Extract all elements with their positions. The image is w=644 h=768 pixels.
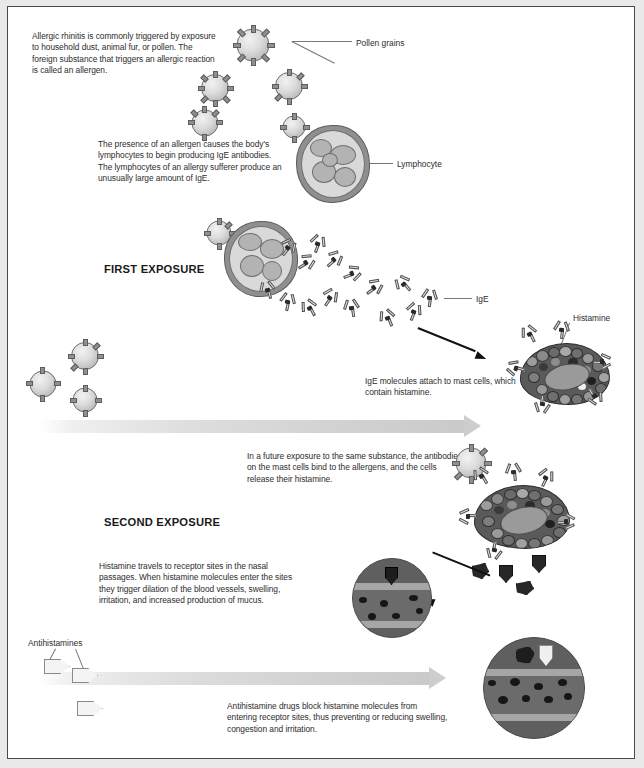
mast-granule: [515, 538, 528, 549]
paragraph-lymphocyte-ige: The presence of an allergen causes the b…: [98, 139, 282, 185]
ige-antibody-labelled: [421, 288, 439, 308]
pollen-spike: [261, 28, 270, 37]
pollen-spike: [95, 398, 102, 403]
ige-arm: [349, 266, 359, 270]
ige-hub: [491, 548, 497, 553]
mast-granule: [528, 490, 541, 501]
flow-arrow-to-mast-cell-head: [475, 351, 488, 363]
pollen-spike: [40, 367, 45, 374]
ige-arm: [376, 284, 384, 294]
nasal-cell-dot: [558, 679, 567, 686]
timeline-arrow-second-head: [429, 667, 446, 689]
nasal-cell-dot: [510, 678, 520, 686]
leader-line-ige: [444, 298, 472, 299]
leader-line-pollen-tick: [292, 41, 335, 64]
pollen-spike: [251, 58, 256, 66]
paragraph-antihistamine-block: Antihistamine drugs block histamine mole…: [227, 701, 449, 735]
pollen-grain: [198, 71, 232, 105]
nasal-cell-dot: [544, 696, 553, 703]
ige-hub: [559, 328, 564, 333]
pollen-spike: [54, 381, 61, 386]
timeline-arrow-second-bar: [39, 672, 429, 685]
mast-granule: [504, 489, 517, 500]
pollen-spike: [227, 86, 234, 91]
ige-arm: [400, 274, 411, 281]
ige-arm: [474, 470, 478, 480]
pollen-spike: [272, 84, 279, 89]
callout-label-ige: IgE: [476, 294, 489, 304]
histamine-molecule: [516, 581, 534, 595]
ige-arm: [432, 289, 438, 300]
nasal-cell-dot: [409, 595, 418, 601]
pollen-spike: [267, 43, 275, 48]
pollen-spike: [452, 461, 460, 466]
ige-arm: [418, 305, 422, 315]
mast-granule: [598, 372, 610, 383]
pollen-spike: [261, 53, 270, 62]
pollen-spike: [40, 395, 45, 402]
pollen-grain: [70, 385, 100, 415]
ige-hub: [285, 300, 291, 305]
lymphocyte-nucleus: [334, 167, 356, 187]
callout-label-pollen-grains: Pollen grains: [356, 38, 404, 48]
ige-hub: [427, 296, 433, 301]
nasal-passage-receptor-site-open: [352, 558, 432, 638]
antihistamine-molecule: [77, 701, 103, 716]
ige-arm: [486, 548, 492, 559]
pollen-spike: [83, 410, 88, 417]
pollen-spike: [198, 86, 205, 91]
pollen-spike: [287, 98, 292, 105]
lymphocyte-nucleus: [238, 233, 262, 251]
pollen-spike: [217, 243, 222, 250]
ige-antibody: [318, 286, 341, 310]
nasal-cell-dot: [380, 600, 388, 607]
mast-granule: [541, 535, 554, 546]
histamine-molecule: [499, 565, 513, 583]
ige-hub: [591, 393, 597, 399]
pollen-grain: [26, 367, 59, 400]
ige-on-mast-cell: [557, 514, 576, 531]
ige-on-mast-cell: [593, 354, 612, 371]
timeline-arrow-first-head: [464, 415, 481, 437]
ige-arm: [564, 321, 571, 332]
pollen-spike: [454, 471, 463, 480]
mast-granule: [502, 535, 515, 546]
ige-antibody: [377, 307, 399, 330]
pollen-core: [29, 370, 56, 397]
timeline-arrow-first-bar: [39, 420, 464, 433]
pollen-spike: [479, 447, 488, 456]
callout-label-histamine: Histamine: [573, 313, 610, 323]
ige-on-mast-cell: [533, 394, 551, 414]
ige-arm: [308, 260, 316, 270]
nasal-cell-dot: [564, 693, 572, 700]
pollen-spike: [469, 444, 474, 452]
nasal-cell-dot: [498, 696, 508, 704]
nasal-cell-dot: [488, 680, 496, 686]
ige-hub: [539, 402, 545, 407]
diagram-frame: Allergic rhinitis is commonly triggered …: [7, 6, 635, 759]
pollen-spike: [70, 398, 77, 403]
pollen-spike: [83, 368, 88, 375]
lymphocyte-nucleus: [262, 261, 282, 281]
lymphocyte-nucleus: [240, 255, 264, 277]
pollen-spike: [280, 125, 287, 130]
mast-granule: [528, 372, 540, 383]
ige-arm: [508, 360, 518, 365]
nasal-cell-dot: [392, 613, 400, 619]
ige-arm: [522, 328, 525, 338]
pollen-spike: [222, 95, 230, 103]
pollen-spike: [83, 385, 88, 392]
stage-heading-second-exposure: SECOND EXPOSURE: [104, 516, 220, 528]
pollen-grain: [272, 69, 306, 103]
ige-arm: [395, 279, 401, 290]
leader-line-pollen: [292, 41, 352, 42]
mast-granule: [516, 488, 529, 499]
lymphocyte-nucleus: [322, 153, 338, 167]
pollen-spike: [97, 354, 104, 359]
mast-granule: [491, 493, 504, 505]
ige-on-mast-cell: [505, 462, 523, 482]
nasal-band-upper: [484, 669, 584, 676]
ige-arm: [550, 472, 553, 482]
ige-arm: [302, 302, 306, 312]
pollen-spike: [188, 120, 195, 125]
